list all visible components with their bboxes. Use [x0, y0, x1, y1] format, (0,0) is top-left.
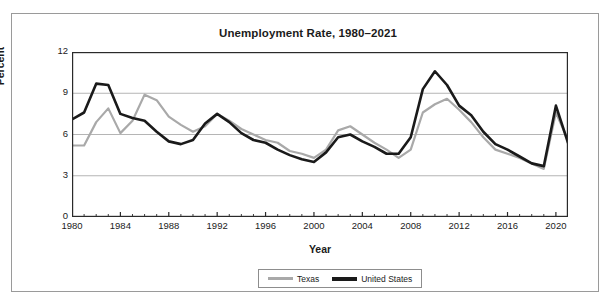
- x-axis-tick-labels: 1980198419881992199620002004200820122016…: [72, 220, 568, 236]
- y-tick-label: 3: [28, 169, 68, 180]
- y-tick-label: 12: [28, 45, 68, 56]
- x-tick-label: 1984: [97, 220, 143, 231]
- legend-label-texas: Texas: [297, 274, 319, 284]
- plot-svg: [72, 52, 568, 217]
- x-tick-label: 1996: [243, 220, 289, 231]
- x-tick-label: 2020: [533, 220, 579, 231]
- series-layer: [72, 71, 568, 169]
- legend-swatch-united-states-icon: [332, 277, 357, 281]
- x-tick-label: 1988: [146, 220, 192, 231]
- chart-legend: Texas United States: [258, 269, 422, 288]
- x-axis-title: Year: [72, 243, 568, 255]
- legend-swatch-texas-icon: [268, 277, 293, 280]
- x-tick-label: 2012: [436, 220, 482, 231]
- x-tick-label: 1992: [194, 220, 240, 231]
- y-tick-label: 9: [28, 86, 68, 97]
- y-tick-label: 6: [28, 128, 68, 139]
- y-axis-title: Percent: [0, 21, 6, 111]
- plot-area: [72, 52, 568, 217]
- series-line-united-states: [72, 71, 568, 166]
- gridlines: [72, 93, 568, 176]
- x-tick-label: 2008: [388, 220, 434, 231]
- legend-item-texas: Texas: [268, 274, 319, 284]
- x-tick-label: 2000: [291, 220, 337, 231]
- chart-figure: Unemployment Rate, 1980–2021 Percent 036…: [0, 0, 616, 306]
- y-axis-tick-labels: 036912: [22, 52, 68, 217]
- x-tick-label: 2016: [485, 220, 531, 231]
- legend-item-united-states: United States: [332, 274, 412, 284]
- x-tick-label: 2004: [339, 220, 385, 231]
- chart-title: Unemployment Rate, 1980–2021: [0, 27, 616, 39]
- x-tick-label: 1980: [49, 220, 95, 231]
- legend-label-united-states: United States: [361, 274, 412, 284]
